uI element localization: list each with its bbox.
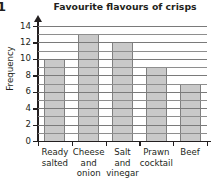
gridline	[38, 34, 207, 35]
gridline	[38, 92, 207, 93]
gridline	[38, 100, 207, 101]
x-axis-tick	[72, 141, 73, 146]
gridline	[38, 108, 207, 109]
x-axis-tick	[139, 141, 140, 146]
category-label-line: and	[72, 158, 106, 169]
y-axis-tick-label: 10	[15, 54, 31, 63]
y-axis-tick-label: 4	[15, 104, 31, 113]
category-label-line: Salt	[106, 147, 140, 158]
gridline	[38, 42, 207, 43]
category-label-line: and	[106, 158, 140, 169]
x-axis-tick	[38, 141, 39, 146]
category-label-line: Cheese	[72, 147, 106, 158]
gridline	[38, 125, 207, 126]
gridlines	[38, 26, 207, 141]
gridline	[38, 116, 207, 117]
x-axis-category-label: Readysalted	[38, 147, 72, 168]
category-label-line: Beef	[173, 147, 207, 158]
y-axis-tick-label: 12	[15, 38, 31, 47]
gridline	[38, 67, 207, 68]
category-label-line: cocktail	[139, 158, 173, 169]
category-label-line: salted	[38, 158, 72, 169]
category-label-line: vinegar	[106, 168, 140, 179]
x-axis-tick	[173, 141, 174, 146]
category-label-line: Ready	[38, 147, 72, 158]
chart-title: Favourite flavours of crisps	[40, 1, 210, 12]
gridline	[38, 84, 207, 85]
y-axis-tick-label: 0	[15, 137, 31, 146]
gridline	[38, 59, 207, 60]
y-axis-tick-label: 6	[15, 87, 31, 96]
gridline	[38, 26, 207, 27]
x-axis-tick	[207, 141, 208, 146]
x-axis-category-label: Cheeseandonion	[72, 147, 106, 179]
y-axis-tick-label: 8	[15, 71, 31, 80]
category-label-line: onion	[72, 168, 106, 179]
x-axis-line	[37, 141, 211, 142]
x-axis-category-label: Saltandvinegar	[106, 147, 140, 179]
x-axis-tick	[106, 141, 107, 146]
y-axis-arrow-icon	[34, 15, 42, 22]
gridline	[38, 51, 207, 52]
question-number: 1	[0, 0, 5, 13]
gridline	[38, 133, 207, 134]
chart-figure: 1 Favourite flavours of crisps Frequency…	[0, 0, 214, 190]
x-axis-category-label: Beef	[173, 147, 207, 158]
y-axis-tick-label: 14	[15, 22, 31, 31]
plot-area	[38, 26, 207, 141]
gridline	[38, 75, 207, 76]
y-axis-tick-labels: 02468101214	[13, 0, 31, 190]
category-label-line: Prawn	[139, 147, 173, 158]
x-axis-category-label: Prawncocktail	[139, 147, 173, 168]
y-axis-tick-label: 2	[15, 120, 31, 129]
